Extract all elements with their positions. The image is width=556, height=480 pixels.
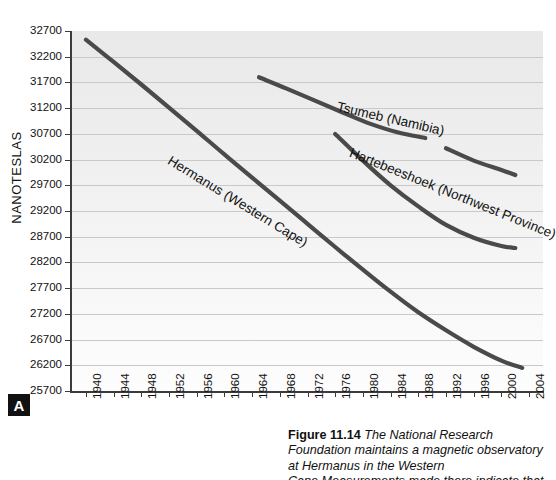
y-tick-mark	[65, 160, 71, 161]
y-tick-label: 30200	[2, 154, 62, 166]
y-tick-mark	[65, 185, 71, 186]
x-tick-mark	[252, 391, 253, 397]
x-tick-label: 1988	[423, 373, 435, 399]
x-tick-label: 1972	[313, 373, 325, 399]
x-tick-label: 1956	[202, 373, 214, 399]
y-tick-label: 29200	[2, 205, 62, 217]
x-tick-label: 1952	[174, 373, 186, 399]
gridline	[72, 160, 543, 161]
x-tick-mark	[86, 391, 87, 397]
x-tick-mark	[529, 391, 530, 397]
gridline	[72, 365, 543, 366]
x-tick-label: 1944	[119, 373, 131, 399]
x-tick-mark	[141, 391, 142, 397]
geomagnetic-timescale-panel: 0 Brunhes normal interval	[0, 424, 285, 480]
figure-caption: Figure 11.14 The National Research Found…	[288, 428, 552, 480]
gridline	[72, 340, 543, 341]
y-tick-label: 32700	[2, 25, 62, 37]
x-tick-label: 1940	[91, 373, 103, 399]
gridline	[72, 108, 543, 109]
y-tick-mark	[65, 237, 71, 238]
x-tick-mark	[280, 391, 281, 397]
y-tick-mark	[65, 211, 71, 212]
y-tick-mark	[65, 365, 71, 366]
x-tick-label: 1968	[285, 373, 297, 399]
y-tick-mark	[65, 288, 71, 289]
y-tick-mark	[65, 82, 71, 83]
y-tick-mark	[65, 108, 71, 109]
y-tick-label: 32200	[2, 51, 62, 63]
x-tick-mark	[197, 391, 198, 397]
x-tick-mark	[474, 391, 475, 397]
x-tick-label: 1984	[396, 373, 408, 399]
x-tick-label: 2004	[534, 373, 546, 399]
y-tick-label: 26700	[2, 334, 62, 346]
y-tick-mark	[65, 134, 71, 135]
x-tick-mark	[363, 391, 364, 397]
y-tick-mark	[65, 391, 71, 392]
y-tick-label: 28700	[2, 231, 62, 243]
y-tick-label: 27200	[2, 308, 62, 320]
x-tick-label: 1948	[146, 373, 158, 399]
x-tick-label: 1976	[340, 373, 352, 399]
x-tick-mark	[114, 391, 115, 397]
panel-badge-a: A	[8, 394, 30, 416]
y-tick-label: 30700	[2, 128, 62, 140]
x-tick-mark	[224, 391, 225, 397]
y-tick-mark	[65, 340, 71, 341]
y-tick-mark	[65, 262, 71, 263]
x-tick-mark	[169, 391, 170, 397]
x-tick-label: 1980	[368, 373, 380, 399]
gridline	[72, 134, 543, 135]
gridline	[72, 82, 543, 83]
y-tick-label: 31700	[2, 76, 62, 88]
x-tick-mark	[335, 391, 336, 397]
gridline	[72, 211, 543, 212]
gridline	[72, 262, 543, 263]
figure-caption-cut-line: Measurements made there indicate that th…	[288, 474, 544, 480]
x-tick-mark	[308, 391, 309, 397]
x-tick-mark	[391, 391, 392, 397]
gridline	[72, 314, 543, 315]
y-tick-mark	[65, 31, 71, 32]
figure-number: Figure 11.14	[288, 428, 361, 442]
y-tick-label: 31200	[2, 102, 62, 114]
y-tick-mark	[65, 57, 71, 58]
plot-area	[72, 31, 543, 391]
x-tick-label: 1964	[257, 373, 269, 399]
x-tick-label: 1960	[229, 373, 241, 399]
x-tick-mark	[446, 391, 447, 397]
x-tick-mark	[418, 391, 419, 397]
x-tick-mark	[501, 391, 502, 397]
y-tick-label: 27700	[2, 282, 62, 294]
y-tick-mark	[65, 314, 71, 315]
y-tick-label: 26200	[2, 359, 62, 371]
gridline	[72, 288, 543, 289]
x-tick-label: 1992	[451, 373, 463, 399]
magnetic-field-chart: NANOTESLAS 32700322003170031200307003020…	[0, 0, 556, 420]
y-tick-label: 29700	[2, 179, 62, 191]
x-tick-label: 1996	[479, 373, 491, 399]
y-tick-label: 28200	[2, 256, 62, 268]
x-tick-label: 2000	[506, 373, 518, 399]
figure-root: NANOTESLAS 32700322003170031200307003020…	[0, 0, 556, 480]
gridline	[72, 57, 543, 58]
gridline	[72, 185, 543, 186]
